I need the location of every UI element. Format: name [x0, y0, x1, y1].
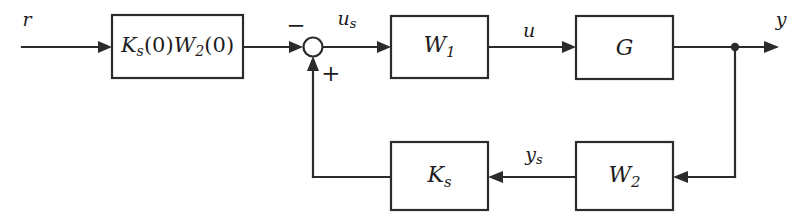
- block-label-prefilter: Ks(0)W2(0): [121, 35, 234, 58]
- block-diagram: Ks(0)W2(0) W1 G Ks W2 r us u y ys − +: [0, 0, 808, 220]
- signal-label-us: us: [338, 9, 357, 32]
- block-label-ks: Ks: [427, 164, 451, 189]
- block-label-w1: W1: [423, 34, 455, 59]
- block-label-g: G: [616, 37, 634, 59]
- arrowhead-into-w2: [673, 171, 688, 183]
- arrowhead-into-ks: [488, 171, 503, 183]
- signal-label-r: r: [22, 10, 31, 29]
- minus-sign: −: [286, 14, 305, 37]
- output-tap-node: [731, 43, 739, 51]
- arrowhead-feedback-into-sum: [307, 56, 319, 71]
- signal-label-y: y: [776, 10, 787, 29]
- arrowhead-into-g: [562, 41, 576, 53]
- arrowhead-output-y: [764, 41, 779, 53]
- signal-label-u: u: [523, 21, 535, 40]
- signal-label-ys: ys: [525, 145, 542, 168]
- plus-sign: +: [321, 62, 340, 85]
- arrowhead-into-prefilter: [98, 41, 112, 53]
- arrowhead-into-sum: [289, 41, 303, 53]
- arrowhead-into-w1: [377, 41, 391, 53]
- block-label-w2: W2: [608, 164, 640, 189]
- summing-junction: [304, 38, 323, 57]
